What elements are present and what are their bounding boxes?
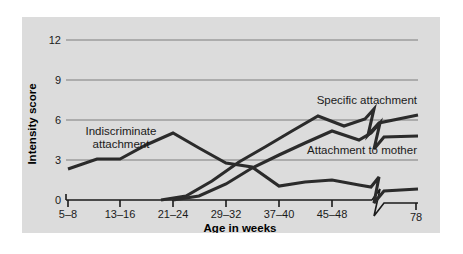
x-tick-label-45-48: 45–48: [317, 208, 348, 220]
y-tick-label-6: 6: [55, 114, 61, 126]
x-tick-label-78: 78: [410, 211, 422, 223]
y-tick-label-3: 3: [55, 154, 61, 166]
y-axis-title: Intensity score: [26, 83, 38, 164]
series-label-indiscriminate-attachment-line1: Indiscriminate: [86, 125, 157, 137]
chart-figure: 12 9 6 3 0 Intensity score 5–8 13–16 2: [22, 17, 440, 233]
y-tick-label-12: 12: [49, 34, 61, 46]
series-label-indiscriminate-attachment-line2: attachment: [93, 138, 151, 150]
series-line-attachment-to-mother: [173, 123, 418, 200]
series-label-attachment-to-mother: Attachment to mother: [307, 144, 417, 156]
x-tick-label-5-8: 5–8: [59, 208, 77, 220]
x-axis-ticks: 5–8 13–16 21–24 29–32 37–40 45–48 78: [59, 208, 422, 223]
y-tick-label-0: 0: [55, 194, 61, 206]
x-axis-title: Age in weeks: [204, 222, 277, 233]
line-chart-plot: 12 9 6 3 0 Intensity score 5–8 13–16 2: [22, 17, 440, 233]
x-tick-label-29-32: 29–32: [211, 208, 242, 220]
x-tick-label-21-24: 21–24: [158, 208, 189, 220]
x-tick-label-13-16: 13–16: [105, 208, 136, 220]
series-label-specific-attachment: Specific attachment: [317, 94, 418, 106]
x-tick-label-37-40: 37–40: [264, 208, 295, 220]
y-tick-label-9: 9: [55, 74, 61, 86]
y-axis-ticks: 12 9 6 3 0: [49, 34, 61, 206]
